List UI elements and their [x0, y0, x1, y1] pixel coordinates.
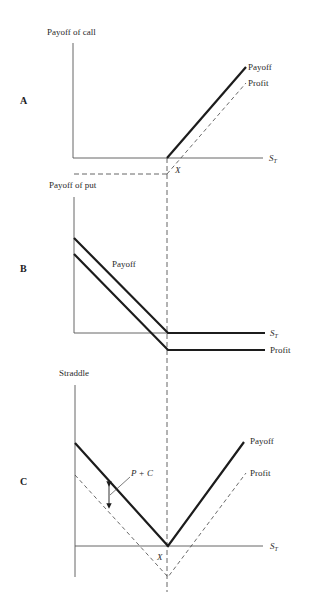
y-axis-label-put: Payoff of put — [49, 180, 97, 190]
y-axis-label-call: Payoff of call — [47, 27, 96, 37]
x-axis-label-b: ST — [270, 328, 279, 339]
call-payoff-line — [167, 67, 246, 158]
put-payoff-label: Payoff — [112, 259, 136, 269]
panel-c: C Straddle ST Payoff Profit P + C X — [20, 368, 279, 577]
straddle-figure: A Payoff of call ST Payoff Profit X B Pa… — [0, 0, 309, 593]
y-axis-label-straddle: Straddle — [59, 368, 89, 378]
strike-label-c: X — [156, 552, 163, 562]
call-payoff-label: Payoff — [248, 62, 272, 72]
panel-label-c: C — [20, 476, 27, 487]
put-profit-label: Profit — [270, 345, 291, 355]
panel-label-b: B — [20, 263, 27, 274]
premium-annotation: P + C — [130, 468, 154, 478]
straddle-profit-label: Profit — [250, 468, 271, 478]
call-profit-line — [167, 83, 246, 174]
panel-b: B Payoff of put Payoff ST Profit — [20, 180, 291, 355]
call-profit-label: Profit — [248, 78, 269, 88]
put-payoff-line — [74, 238, 265, 333]
straddle-payoff-label: Payoff — [250, 436, 274, 446]
x-axis-label-a: ST — [269, 153, 278, 164]
straddle-payoff-line — [75, 442, 244, 546]
x-axis-label-c: ST — [270, 541, 279, 552]
strike-label-a: X — [174, 165, 181, 175]
panel-label-a: A — [20, 95, 28, 106]
panel-a: A Payoff of call ST Payoff Profit X — [20, 27, 278, 175]
